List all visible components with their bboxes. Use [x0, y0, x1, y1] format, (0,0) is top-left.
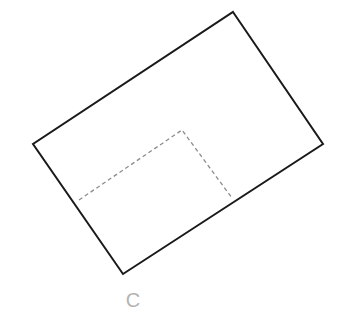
outer-rectangle-outline	[33, 12, 323, 274]
shape-label-c: C	[126, 289, 140, 311]
inner-dashed-rectangle	[79, 130, 232, 200]
figure-canvas: C	[0, 0, 345, 321]
geometry-figure: C	[0, 0, 345, 321]
